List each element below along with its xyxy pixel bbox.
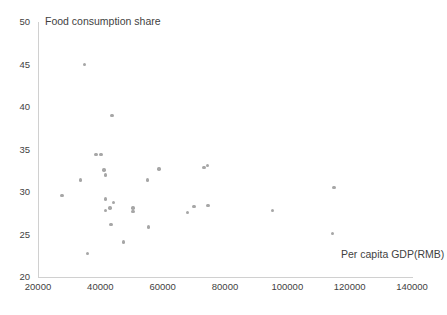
y-tick-label: 35 (2, 145, 30, 155)
y-tick-label: 50 (2, 17, 30, 27)
y-tick-label: 25 (2, 230, 30, 240)
data-point (206, 164, 209, 167)
data-point (271, 209, 274, 212)
data-point (332, 186, 335, 189)
data-point (108, 206, 111, 209)
data-point (157, 167, 160, 170)
data-point (99, 153, 102, 156)
y-tick-label: 40 (2, 102, 30, 112)
x-tick-label: 60000 (128, 281, 198, 292)
x-tick-label: 20000 (3, 281, 73, 292)
y-tick-label: 30 (2, 187, 30, 197)
x-tick-label: 100000 (252, 281, 322, 292)
data-point (206, 204, 209, 207)
x-tick-label: 80000 (190, 281, 260, 292)
x-tick-label: 140000 (377, 281, 447, 292)
data-point (94, 153, 97, 156)
data-point (60, 194, 63, 197)
data-point (104, 197, 107, 200)
data-point (110, 114, 113, 117)
x-tick-label: 120000 (315, 281, 385, 292)
x-tick-label: 40000 (65, 281, 135, 292)
data-point (331, 232, 334, 235)
data-point (102, 168, 105, 171)
data-point (109, 223, 112, 226)
data-point (122, 240, 125, 243)
data-point (86, 252, 89, 255)
data-point (104, 209, 107, 212)
data-point (146, 178, 149, 181)
data-point (186, 211, 189, 214)
scatter-chart: Food consumption share 20253035404550 20… (0, 0, 447, 315)
data-point (192, 205, 195, 208)
x-axis-title: Per capita GDP(RMB) (341, 248, 444, 261)
data-point (147, 225, 150, 228)
data-point (83, 63, 86, 66)
y-tick-label: 45 (2, 60, 30, 70)
x-axis-line (38, 277, 413, 278)
plot-area (38, 22, 412, 277)
data-point (131, 210, 134, 213)
data-point (104, 173, 107, 176)
data-point (112, 201, 115, 204)
data-point (79, 178, 82, 181)
